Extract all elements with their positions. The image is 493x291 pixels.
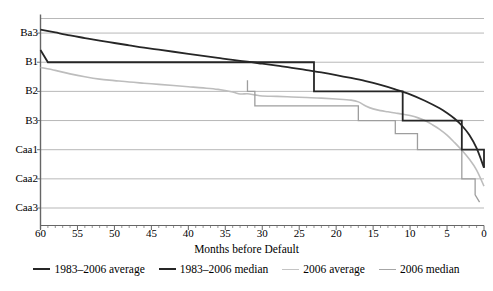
x-axis-label-30: 30	[247, 228, 277, 239]
x-axis-label-20: 20	[321, 228, 351, 239]
legend-item-0[interactable]: 1983–2006 average	[33, 263, 144, 275]
x-axis-label-50: 50	[99, 228, 129, 239]
x-axis-label-40: 40	[173, 228, 203, 239]
x-axis-label-60: 60	[26, 228, 56, 239]
legend-label: 2006 average	[303, 263, 365, 275]
legend-item-1[interactable]: 1983–2006 median	[159, 263, 268, 275]
legend-swatch-icon	[379, 269, 396, 270]
x-axis-label-25: 25	[284, 228, 314, 239]
legend-item-3[interactable]: 2006 median	[379, 263, 460, 275]
x-axis-label-55: 55	[62, 228, 92, 239]
legend-label: 1983–2006 median	[180, 263, 268, 275]
x-axis-label-10: 10	[395, 228, 425, 239]
x-axis-label-5: 5	[432, 228, 462, 239]
legend-swatch-icon	[33, 268, 50, 270]
x-axis-title: Months before Default	[0, 243, 493, 255]
x-axis-label-0: 0	[469, 228, 493, 239]
legend-swatch-icon	[159, 268, 176, 270]
legend-label: 1983–2006 average	[54, 263, 144, 275]
chart-legend: 1983–2006 average1983–2006 median2006 av…	[0, 263, 493, 275]
x-axis-label-15: 15	[358, 228, 388, 239]
legend-item-2[interactable]: 2006 average	[282, 263, 365, 275]
chart-container: Ba3B1B2B3Caa1Caa2Caa3 605550454035302520…	[0, 0, 493, 291]
legend-label: 2006 median	[400, 263, 460, 275]
x-axis-label-45: 45	[136, 228, 166, 239]
x-axis-label-35: 35	[210, 228, 240, 239]
legend-swatch-icon	[282, 269, 299, 270]
